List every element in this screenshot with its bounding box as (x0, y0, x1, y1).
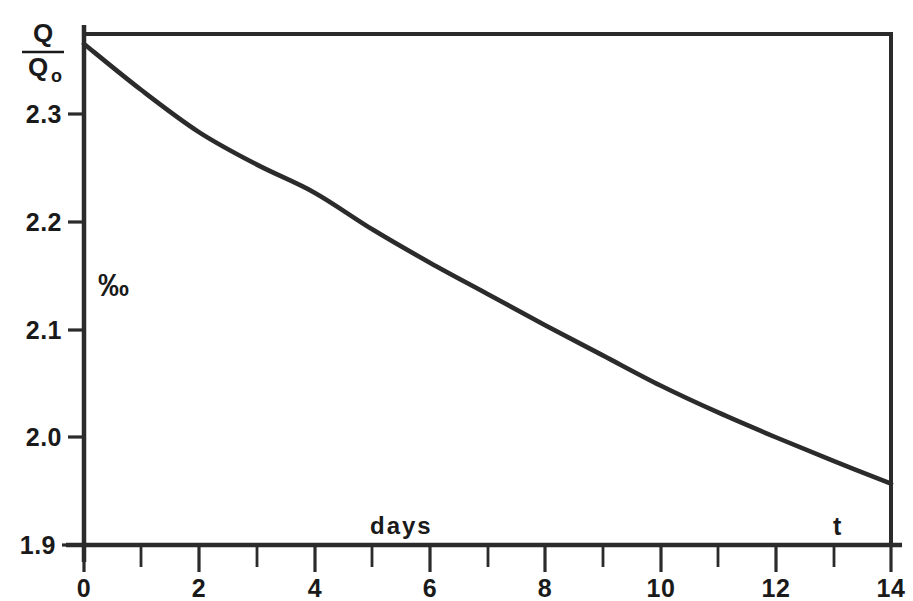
x-axis-tick-labels: 0 2 4 6 8 10 12 14 (77, 574, 906, 601)
per-mille-annotation: ‰ (98, 268, 129, 303)
y-tick-label-2-1: 2.1 (26, 316, 62, 344)
y-tick-label-1-9: 1.9 (20, 531, 56, 559)
frame-top-right-border (84, 34, 891, 545)
y-axis-title: Q Q o (22, 18, 64, 86)
x-axis-title-t: t (833, 512, 842, 540)
x-tick-label-4: 4 (308, 574, 322, 601)
y-axis-ticks (62, 114, 84, 545)
y-axis-title-denominator-subscript: o (51, 66, 62, 86)
y-tick-label-2-0: 2.0 (26, 423, 62, 451)
decay-curve (84, 44, 891, 484)
chart-figure: 2.3 2.2 2.1 2.0 1.9 0 (0, 0, 913, 601)
line-chart-canvas: 2.3 2.2 2.1 2.0 1.9 0 (0, 0, 913, 601)
x-tick-label-6: 6 (423, 574, 437, 601)
y-tick-label-2-3: 2.3 (26, 100, 62, 128)
y-tick-label-2-2: 2.2 (26, 208, 62, 236)
x-axis-ticks (84, 545, 891, 572)
y-axis-title-numerator: Q (33, 18, 53, 48)
x-axis-units-label-days: days (370, 512, 433, 539)
x-tick-label-14: 14 (877, 574, 906, 601)
x-tick-label-8: 8 (538, 574, 552, 601)
x-tick-label-0: 0 (77, 574, 91, 601)
x-tick-label-2: 2 (192, 574, 206, 601)
y-axis-tick-labels: 2.3 2.2 2.1 2.0 1.9 (20, 100, 62, 559)
y-axis-title-denominator: Q (28, 52, 48, 82)
x-tick-label-10: 10 (647, 574, 676, 601)
x-tick-label-12: 12 (762, 574, 791, 601)
